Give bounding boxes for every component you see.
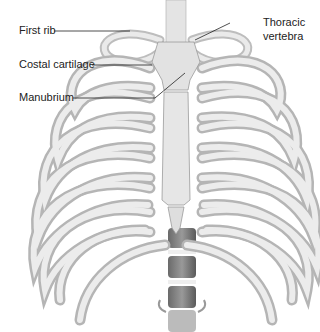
rib-cage-diagram: First rib Costal cartilage Manubrium Tho… (0, 0, 320, 332)
label-costal-cartilage: Costal cartilage (19, 58, 95, 71)
label-manubrium: Manubrium (19, 91, 74, 104)
ribs-right (187, 34, 318, 320)
rib-cage-illustration (0, 0, 320, 332)
manubrium-shape (152, 42, 200, 90)
label-thoracic-vertebra-line1: Thoracic (263, 16, 305, 29)
label-first-rib: First rib (19, 24, 56, 37)
label-thoracic-vertebra-line2: vertebra (263, 30, 303, 43)
ribs-left (34, 34, 165, 320)
sternum-body (162, 92, 190, 205)
sternum (152, 42, 200, 234)
